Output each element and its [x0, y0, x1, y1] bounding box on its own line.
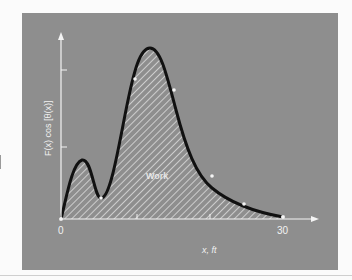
- data-marker: [281, 215, 285, 219]
- data-marker: [172, 88, 176, 92]
- x-tick-label-0: 0: [58, 225, 64, 236]
- data-marker: [99, 196, 103, 200]
- work-area-fill: [61, 48, 283, 219]
- data-marker: [59, 217, 63, 221]
- figure: 0 30 x, ft F(x) cos [θ(x)] Work: [0, 0, 352, 280]
- work-area-label: Work: [146, 171, 169, 181]
- bottom-divider: [0, 275, 352, 276]
- y-axis-label: F(x) cos [θ(x)]: [43, 101, 53, 157]
- x-axis-label: x, ft: [201, 245, 217, 255]
- data-marker: [133, 77, 137, 81]
- x-tick-label-30: 30: [277, 225, 289, 236]
- y-axis-arrow-icon: [58, 32, 64, 40]
- work-area-chart: 0 30 x, ft F(x) cos [θ(x)] Work: [0, 0, 352, 280]
- data-marker: [242, 202, 246, 206]
- x-axis-arrow-icon: [311, 216, 319, 222]
- data-marker: [210, 174, 214, 178]
